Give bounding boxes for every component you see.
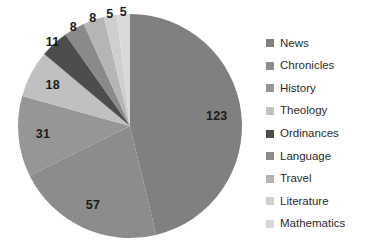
pie-slice-value-label: 57 (86, 199, 100, 212)
legend-item-label: Theology (280, 105, 327, 117)
pie-slice-value-label: 31 (36, 128, 50, 141)
pie-plot-area: 123573118118855 (0, 0, 262, 249)
legend-swatch-icon (266, 197, 274, 205)
pie-slice-value-label: 18 (46, 79, 60, 92)
legend-swatch-icon (266, 130, 274, 138)
legend-swatch-icon (266, 107, 274, 115)
legend-item[interactable]: Theology (266, 100, 366, 123)
legend-swatch-icon (266, 62, 274, 70)
legend-item[interactable]: Travel (266, 168, 366, 191)
legend-item-label: Literature (280, 196, 329, 208)
legend-item-label: Mathematics (280, 218, 345, 230)
legend-item-label: Language (280, 151, 331, 163)
pie-slice-value-label: 8 (70, 21, 77, 34)
legend-item[interactable]: Ordinances (266, 122, 366, 145)
pie-slice-value-label: 123 (206, 109, 227, 122)
pie-slice-value-label: 5 (120, 6, 127, 19)
legend-item-label: Travel (280, 173, 312, 185)
legend-item[interactable]: News (266, 32, 366, 55)
pie-chart-figure: 123573118118855 NewsChroniclesHistoryThe… (0, 0, 368, 249)
pie-slice-value-label: 11 (46, 36, 60, 49)
legend-swatch-icon (266, 175, 274, 183)
legend-item-label: Ordinances (280, 128, 339, 140)
legend-item[interactable]: History (266, 77, 366, 100)
pie-slice-value-label: 5 (106, 7, 113, 20)
legend-item[interactable]: Language (266, 145, 366, 168)
legend-swatch-icon (266, 39, 274, 47)
chart-legend: NewsChroniclesHistoryTheologyOrdinancesL… (266, 32, 366, 235)
pie-svg (0, 0, 262, 249)
legend-item-label: History (280, 83, 316, 95)
legend-item-label: Chronicles (280, 60, 334, 72)
legend-item[interactable]: Chronicles (266, 55, 366, 78)
legend-item[interactable]: Literature (266, 190, 366, 213)
pie-slice-value-label: 8 (89, 12, 96, 25)
legend-item-label: News (280, 38, 309, 50)
legend-swatch-icon (266, 84, 274, 92)
legend-item[interactable]: Mathematics (266, 213, 366, 236)
legend-swatch-icon (266, 220, 274, 228)
legend-swatch-icon (266, 152, 274, 160)
